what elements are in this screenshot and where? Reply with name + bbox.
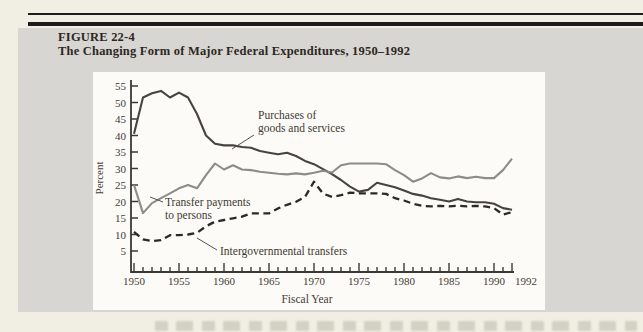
annotation-pointer-line (197, 238, 217, 250)
top-rule-thick (28, 22, 643, 26)
annotation-label: to persons (165, 209, 212, 222)
x-tick-label: 1975 (348, 275, 371, 287)
annotation-label: Intergovernmental transfers (220, 245, 348, 258)
y-tick-label: 35 (115, 146, 127, 158)
figure-title: The Changing Form of Major Federal Expen… (58, 45, 410, 58)
x-tick-label: 1955 (168, 275, 191, 287)
x-tick-label: 1980 (393, 275, 416, 287)
y-tick-label: 15 (115, 212, 127, 224)
truncated-caption-remnant (155, 321, 637, 331)
y-tick-label: 20 (115, 196, 127, 208)
y-tick-label: 5 (121, 245, 127, 257)
y-tick-label: 55 (115, 80, 127, 92)
y-tick-label: 50 (115, 97, 127, 109)
x-tick-label: 1960 (213, 275, 236, 287)
annotation-label: Transfer payments (165, 196, 251, 209)
y-axis-title: Percent (93, 162, 105, 195)
textbook-page: FIGURE 22-4 The Changing Form of Major F… (0, 0, 643, 332)
y-tick-label: 10 (115, 229, 127, 241)
x-axis-title: Fiscal Year (281, 293, 332, 305)
series-line-purchases (134, 91, 512, 210)
annotation-label: Purchases of (258, 109, 317, 121)
chart-panel: 5101520253035404550551950195519601965197… (93, 72, 545, 310)
figure-panel: FIGURE 22-4 The Changing Form of Major F… (18, 28, 643, 312)
line-chart: 5101520253035404550551950195519601965197… (93, 72, 545, 310)
y-tick-label: 25 (115, 179, 127, 191)
x-tick-label: 1965 (258, 275, 281, 287)
top-rule-thin (28, 13, 643, 15)
x-tick-label: 1985 (438, 275, 461, 287)
x-tick-label: 1990 (483, 275, 506, 287)
y-tick-label: 30 (115, 163, 127, 175)
y-tick-label: 45 (115, 113, 127, 125)
x-tick-label: 1950 (123, 275, 146, 287)
x-tick-label: 1970 (303, 275, 326, 287)
y-tick-label: 40 (115, 130, 127, 142)
annotation-label: goods and services (258, 122, 345, 135)
x-tick-label: 1992 (515, 275, 537, 287)
figure-label: FIGURE 22-4 (58, 31, 135, 44)
